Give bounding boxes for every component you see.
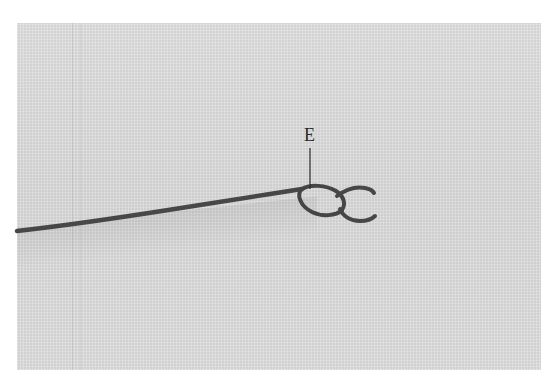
stitch-drawing (0, 0, 555, 385)
chain-loop (299, 186, 344, 215)
stitch-label: E (304, 126, 315, 144)
stitch-arm-lower (340, 209, 375, 221)
thread (17, 189, 302, 231)
